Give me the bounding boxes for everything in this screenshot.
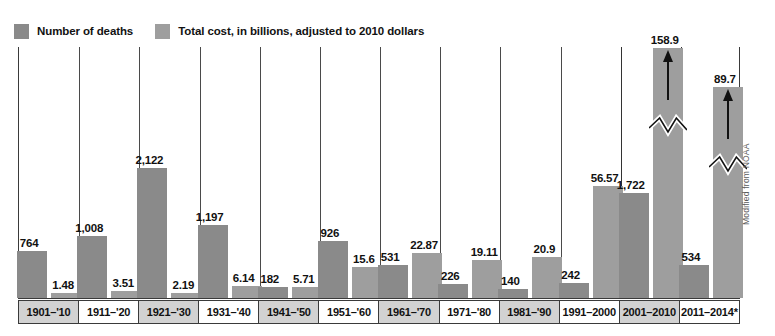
x-axis-cell: 2001–2010 [620,301,680,323]
legend-swatch-icon [155,24,170,39]
bar-deaths [17,251,47,298]
x-axis-labels: 1901–'101911–'201921–'301931–'401941–'50… [18,300,740,324]
bar-label-deaths: 182 [255,273,285,285]
bar-label-deaths: 534 [676,251,706,263]
bar-label-deaths: 242 [556,269,586,281]
bar-label-deaths: 1,197 [195,211,225,223]
legend-label-deaths: Number of deaths [37,25,133,37]
legend-entry-deaths: Number of deaths [14,24,133,39]
bar-deaths [318,241,348,298]
bar-deaths [198,225,228,298]
bar-label-cost: 5.71 [289,273,319,285]
legend-label-cost: Total cost, in billions, adjusted to 201… [178,25,424,37]
x-axis-cell: 1901–'10 [19,301,79,323]
bar-label-deaths: 531 [375,251,405,263]
plot-area: 7641.481,0083.512,1222.191,1976.141825.7… [18,47,740,299]
x-axis-cell: 1931–'40 [199,301,259,323]
bar-deaths [137,168,167,298]
x-axis-cell: 1941–'50 [259,301,319,323]
bar-label-cost: 158.9 [650,34,680,46]
bar-label-cost: 3.51 [108,277,138,289]
bar-label-deaths: 226 [435,270,465,282]
legend-swatch-icon [14,24,29,39]
bar-cost [713,87,743,298]
bar-label-deaths: 1,722 [616,179,646,191]
bar-deaths [77,236,107,298]
bar-label-cost: 20.9 [529,243,559,255]
bar-label-deaths: 140 [495,275,525,287]
hurricane-deaths-cost-chart: Number of deaths Total cost, in billions… [0,0,775,336]
bar-label-cost: 19.11 [469,246,499,258]
bar-label-deaths: 926 [315,227,345,239]
bar-label-cost: 2.19 [168,279,198,291]
x-axis-cell: 1971–'80 [440,301,500,323]
bar-deaths [438,284,468,298]
x-axis-cell: 1981–'90 [500,301,560,323]
x-axis-cell: 1951–'60 [319,301,379,323]
bar-deaths [498,289,528,298]
column-divider [260,47,261,298]
bar-label-cost: 89.7 [710,73,740,85]
legend-entry-cost: Total cost, in billions, adjusted to 201… [155,24,424,39]
bar-label-deaths: 764 [14,237,44,249]
bar-deaths [559,283,589,298]
bar-deaths [619,193,649,298]
bar-label-deaths: 1,008 [74,222,104,234]
x-axis-cell: 1961–'70 [379,301,439,323]
chart-legend: Number of deaths Total cost, in billions… [14,22,424,40]
bar-label-cost: 1.48 [48,279,78,291]
bar-deaths [679,265,709,298]
x-axis-cell: 1991–2000 [560,301,620,323]
bar-label-cost: 22.87 [409,239,439,251]
bar-label-deaths: 2,122 [134,154,164,166]
x-axis-cell: 1921–'30 [139,301,199,323]
bar-deaths [378,265,408,298]
source-credit: Modified from NOAA [741,143,751,225]
x-axis-cell: 1911–'20 [79,301,139,323]
x-axis-cell: 2011–2014* [680,301,739,323]
bar-deaths [258,287,288,298]
